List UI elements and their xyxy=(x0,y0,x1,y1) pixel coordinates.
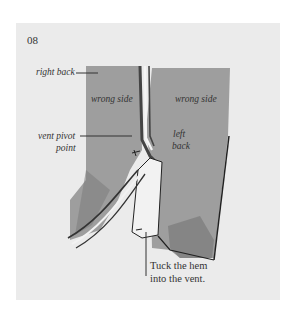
garment-illustration xyxy=(0,0,297,317)
label-left-back-2: back xyxy=(172,140,190,152)
caption-line-1: Tuck the hem xyxy=(150,259,207,272)
caption-line-2: into the vent. xyxy=(150,272,207,285)
caption: Tuck the hem into the vent. xyxy=(150,259,207,285)
step-number: 08 xyxy=(27,34,38,46)
label-wrong-side-right: wrong side xyxy=(175,93,217,105)
label-right-back: right back xyxy=(36,66,75,78)
label-wrong-side-left: wrong side xyxy=(91,93,133,105)
label-vent-pivot-2: point xyxy=(56,142,76,154)
label-vent-pivot-1: vent pivot xyxy=(38,130,75,142)
label-left-back-1: left xyxy=(173,128,185,140)
hem-white-strip xyxy=(132,158,162,238)
